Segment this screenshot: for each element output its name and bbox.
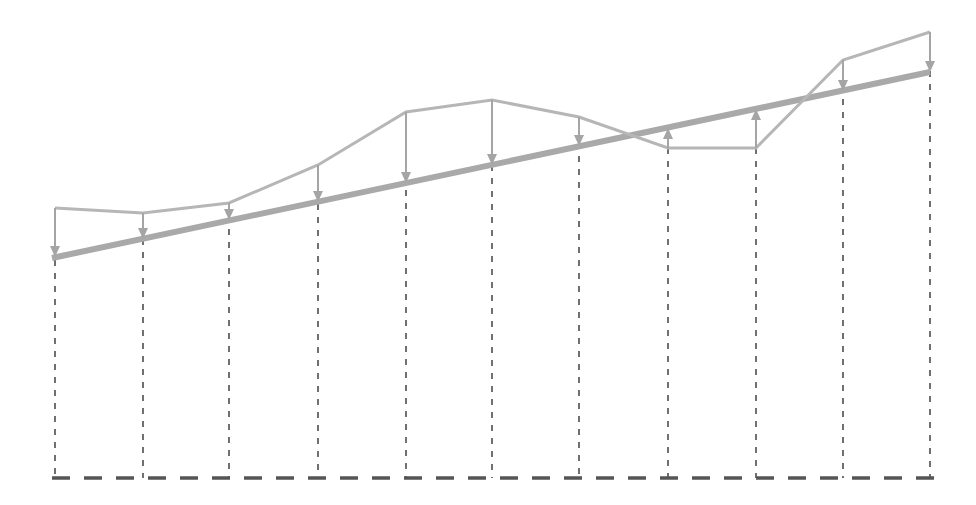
deviation-arrow-1-down	[50, 208, 60, 257]
deviation-arrow-7-down	[574, 117, 584, 146]
deviation-arrow-11-down	[925, 32, 935, 72]
deviation-arrow-4-down	[313, 165, 323, 202]
chart-canvas	[0, 0, 976, 505]
deviation-arrow-5-down	[401, 112, 411, 183]
deviation-arrow-9-up	[751, 109, 761, 148]
deviation-arrows-group	[50, 32, 935, 257]
deviation-chart	[0, 0, 976, 505]
deviation-arrow-6-down	[487, 100, 497, 165]
